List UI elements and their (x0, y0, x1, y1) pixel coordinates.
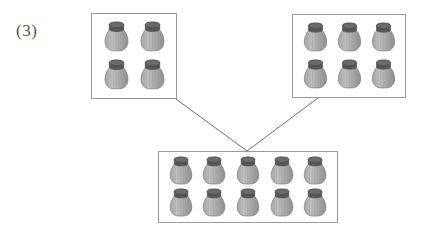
jar-icon (235, 156, 261, 187)
jar-icon (168, 188, 194, 219)
jar-icon (138, 21, 167, 54)
top-left-group-box (91, 13, 177, 99)
connector-left-line (176, 99, 247, 151)
jar-icon (201, 188, 227, 219)
jar-icon (302, 188, 328, 219)
jar-icon (302, 59, 329, 91)
bottom-jar-grid (159, 152, 337, 222)
worksheet-page: (3) (0, 0, 431, 247)
jar-icon (102, 59, 131, 92)
jar-icon (302, 22, 329, 54)
jar-icon (168, 156, 194, 187)
jar-icon (302, 156, 328, 187)
jar-icon (138, 59, 167, 92)
top-left-jar-grid (92, 14, 176, 98)
jar-icon (102, 21, 131, 54)
jar-icon (336, 59, 363, 91)
jar-icon (269, 156, 295, 187)
jar-icon (235, 188, 261, 219)
bottom-total-group-box (158, 151, 338, 223)
jar-icon (370, 59, 397, 91)
jar-icon (269, 188, 295, 219)
connector-right-line (247, 98, 318, 151)
jar-icon (370, 22, 397, 54)
top-right-jar-grid (293, 15, 405, 97)
jar-icon (201, 156, 227, 187)
problem-number-label: (3) (16, 21, 37, 41)
top-right-group-box (292, 14, 406, 98)
jar-icon (336, 22, 363, 54)
